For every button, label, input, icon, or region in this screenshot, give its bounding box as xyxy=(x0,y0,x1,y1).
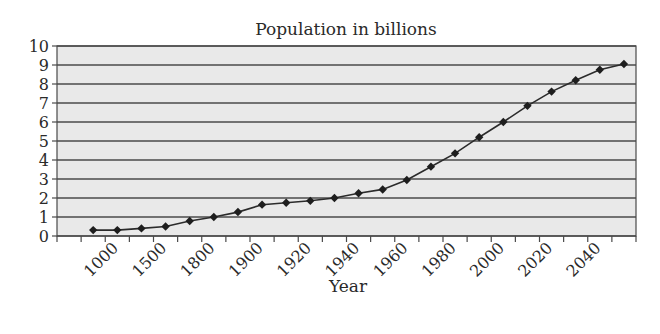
population-chart: Population in billions 012345678910 1000… xyxy=(0,0,660,334)
x-tick-label: 1500 xyxy=(128,238,170,280)
y-tick-label: 5 xyxy=(39,132,49,151)
y-tick-label: 6 xyxy=(39,113,49,132)
y-tick-label: 3 xyxy=(39,170,49,189)
x-tick-label: 2020 xyxy=(514,238,556,280)
y-tick-label: 2 xyxy=(39,189,49,208)
y-tick-label: 7 xyxy=(39,94,49,113)
y-tick-label: 8 xyxy=(39,75,49,94)
y-tick-label: 10 xyxy=(29,37,49,56)
x-tick-label: 1940 xyxy=(321,238,363,280)
x-tick-label: 1980 xyxy=(418,238,460,280)
x-tick-label: 1000 xyxy=(80,238,122,280)
x-tick-label: 1960 xyxy=(369,238,411,280)
x-tick-label: 2040 xyxy=(562,238,604,280)
x-tick-label: 1900 xyxy=(225,238,267,280)
chart-title: Population in billions xyxy=(255,19,437,39)
y-tick-label: 4 xyxy=(39,151,49,170)
y-axis: 012345678910 xyxy=(29,37,57,246)
x-tick-label: 1800 xyxy=(176,238,218,280)
y-tick-label: 0 xyxy=(39,227,49,246)
y-tick-label: 9 xyxy=(39,56,49,75)
x-tick-label: 2000 xyxy=(466,238,508,280)
y-tick-label: 1 xyxy=(39,208,49,227)
x-tick-label: 1920 xyxy=(273,238,315,280)
x-axis: 1000150018001900192019401960198020002020… xyxy=(57,236,636,281)
x-axis-label: Year xyxy=(328,276,368,296)
